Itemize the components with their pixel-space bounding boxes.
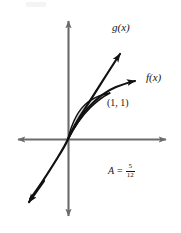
area-between-curves-figure: g(x) f(x) (1, 1) A = 5 12: [0, 0, 181, 233]
figure-canvas: [0, 0, 181, 233]
area-value-fraction: 5 12: [126, 163, 135, 179]
fraction-denominator: 12: [126, 172, 135, 180]
g-curve-lower-arrow: [29, 181, 44, 202]
f-curve-label: f(x): [146, 72, 161, 83]
area-annotation: A = 5 12: [108, 163, 135, 179]
area-variable-label: A: [108, 166, 114, 176]
shaded-area-region: [68, 93, 110, 139]
fraction-numerator: 5: [128, 163, 134, 171]
area-equals-sign: =: [117, 166, 123, 176]
intersection-point-label: (1, 1): [107, 98, 129, 108]
g-curve-label: g(x): [112, 22, 130, 33]
f-curve: [68, 81, 135, 139]
